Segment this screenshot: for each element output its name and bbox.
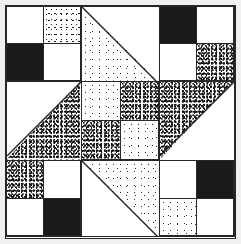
unit-center-four-patch — [81, 81, 160, 161]
patch-bottom-right-2 — [196, 160, 234, 199]
patch-center-3 — [81, 120, 121, 160]
patch-bottom-right-4 — [196, 198, 234, 237]
unit-bottom-left-four-patch — [6, 160, 82, 237]
patch-bottom-right-1 — [159, 160, 197, 199]
unit-top-left-four-patch — [6, 6, 82, 82]
quilt-block-figure — [0, 0, 241, 244]
patch-top-left-1 — [6, 6, 44, 44]
unit-bottom-center-triangle — [81, 160, 160, 237]
triangle-top-center — [82, 7, 159, 81]
unit-middle-left-triangle — [6, 81, 82, 161]
quilt-block-border — [5, 5, 236, 239]
triangle-middle-left — [7, 82, 81, 160]
patch-top-left-2 — [43, 6, 81, 44]
patch-top-right-2 — [196, 6, 234, 44]
unit-bottom-right-four-patch — [159, 160, 235, 237]
unit-top-center-triangle — [81, 6, 160, 82]
quilt-block-grid — [6, 6, 235, 238]
triangle-middle-right — [160, 82, 234, 160]
patch-bottom-left-1 — [6, 160, 44, 199]
patch-top-right-1 — [159, 6, 197, 44]
patch-bottom-left-4 — [43, 198, 81, 237]
unit-top-right-four-patch — [159, 6, 235, 82]
triangle-bottom-center — [82, 161, 159, 236]
patch-top-right-3 — [159, 43, 197, 81]
unit-middle-right-triangle — [159, 81, 235, 161]
patch-top-left-3 — [6, 43, 44, 81]
patch-top-right-4 — [196, 43, 234, 81]
patch-bottom-left-2 — [43, 160, 81, 199]
patch-center-2 — [120, 81, 160, 121]
patch-bottom-left-3 — [6, 198, 44, 237]
patch-bottom-right-3 — [159, 198, 197, 237]
patch-center-4 — [120, 120, 160, 160]
patch-center-1 — [81, 81, 121, 121]
patch-top-left-4 — [43, 43, 81, 81]
